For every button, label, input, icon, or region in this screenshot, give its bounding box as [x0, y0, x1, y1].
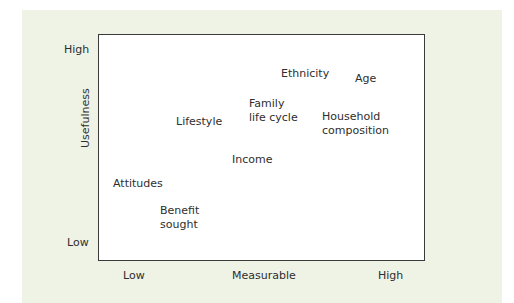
point-label-family-2: life cycle — [249, 111, 298, 124]
point-label-age: Age — [355, 72, 376, 85]
point-label-ethnicity: Ethnicity — [281, 67, 329, 80]
point-label-attitudes: Attitudes — [113, 177, 163, 190]
point-label-income: Income — [232, 153, 272, 166]
y-axis-low-label: Low — [67, 236, 89, 249]
y-axis-title: Usefulness — [79, 88, 92, 148]
point-label-household-1: Household — [322, 110, 380, 123]
point-label-family-1: Family — [249, 97, 284, 110]
point-label-lifestyle: Lifestyle — [176, 115, 222, 128]
x-axis-title: Measurable — [232, 269, 296, 282]
y-axis-high-label: High — [64, 43, 89, 56]
point-label-benefit-1: Benefit — [160, 204, 199, 217]
plot-area — [98, 34, 425, 261]
x-axis-low-label: Low — [123, 269, 145, 282]
point-label-household-2: composition — [322, 124, 389, 137]
x-axis-high-label: High — [378, 269, 403, 282]
point-label-benefit-2: sought — [160, 218, 198, 231]
